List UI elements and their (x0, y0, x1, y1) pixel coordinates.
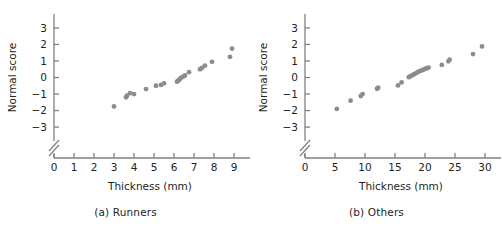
panel-caption-others: (b) Others (251, 206, 502, 218)
x-axis-tick-label: 20 (418, 161, 431, 173)
y-axis-tick-label: 3 (291, 22, 298, 34)
y-axis-tick-label: 3 (40, 22, 47, 34)
y-axis-tick-label: −2 (32, 104, 47, 116)
x-axis-tick-label: 3 (111, 161, 118, 173)
data-point (183, 73, 188, 78)
data-point (154, 83, 159, 88)
y-axis-tick-label: −3 (283, 121, 298, 133)
x-axis-label: Thickness (mm) (107, 180, 192, 192)
data-point (348, 98, 353, 103)
data-point (360, 92, 365, 97)
data-point (376, 85, 381, 90)
x-axis-tick-label: 15 (388, 161, 401, 173)
data-point (230, 46, 235, 51)
data-point (439, 63, 444, 68)
data-point (399, 80, 404, 85)
x-axis-tick-label: 0 (302, 161, 309, 173)
y-axis-tick-label: −1 (283, 88, 298, 100)
y-axis-label: Normal score (257, 43, 269, 113)
y-axis-tick-label: −1 (32, 88, 47, 100)
y-axis-tick-label: −2 (283, 104, 298, 116)
y-axis-tick-label: 2 (291, 38, 298, 50)
x-axis-tick-label: 2 (91, 161, 98, 173)
scatter-plot-runners: −3−2−101230123456789Thickness (mm)Normal… (0, 0, 251, 206)
x-axis-tick-label: 1 (71, 161, 78, 173)
data-point (203, 63, 208, 68)
y-axis-tick-label: 0 (291, 71, 298, 83)
x-axis-tick-label: 4 (131, 161, 138, 173)
chart-panel-runners: −3−2−101230123456789Thickness (mm)Normal… (0, 0, 251, 234)
data-point (112, 104, 117, 109)
data-point (210, 59, 215, 64)
data-point (471, 52, 476, 57)
data-point (228, 54, 233, 59)
data-point (162, 81, 167, 86)
y-axis-tick-label: 1 (40, 55, 47, 67)
x-axis-tick-label: 5 (151, 161, 158, 173)
data-point (144, 87, 149, 92)
x-axis-label: Thickness (mm) (358, 180, 443, 192)
x-axis-tick-label: 30 (478, 161, 491, 173)
data-point-group (112, 46, 235, 109)
y-axis-tick-label: 1 (291, 55, 298, 67)
x-axis-tick-label: 8 (211, 161, 218, 173)
data-point (132, 92, 137, 97)
x-axis-tick-label: 6 (171, 161, 178, 173)
x-axis-tick-label: 0 (51, 161, 58, 173)
y-axis-tick-label: 0 (40, 71, 47, 83)
figure-normal-probability-plots: −3−2−101230123456789Thickness (mm)Normal… (0, 0, 502, 234)
x-axis-tick-label: 7 (191, 161, 198, 173)
data-point (334, 107, 339, 112)
x-axis-tick-label: 10 (358, 161, 371, 173)
x-axis-tick-label: 5 (332, 161, 339, 173)
y-axis-tick-label: −3 (32, 121, 47, 133)
data-point (426, 65, 431, 70)
y-axis-label: Normal score (6, 43, 18, 113)
data-point (128, 91, 133, 96)
data-point-group (334, 44, 484, 111)
data-point (480, 44, 485, 49)
scatter-plot-others: −3−2−10123051015202530Thickness (mm)Norm… (251, 0, 502, 206)
chart-panel-others: −3−2−10123051015202530Thickness (mm)Norm… (251, 0, 502, 234)
y-axis-tick-label: 2 (40, 38, 47, 50)
x-axis-tick-label: 25 (448, 161, 461, 173)
x-axis-tick-label: 9 (231, 161, 238, 173)
data-point (187, 70, 192, 75)
data-point (447, 57, 452, 62)
panel-caption-runners: (a) Runners (0, 206, 251, 218)
